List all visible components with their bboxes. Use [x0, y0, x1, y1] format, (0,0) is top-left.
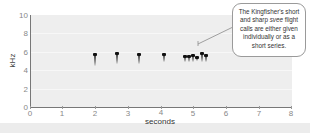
gridline-2khz: [30, 89, 292, 90]
gridline-4khz: [30, 70, 292, 71]
y-axis-label: kHz: [8, 51, 17, 71]
callout-text: flight: [283, 16, 298, 23]
callout-text: and sharp: [240, 16, 270, 23]
call-mark: [163, 53, 165, 62]
call-mark: [138, 53, 140, 64]
x-tick-5: 5: [188, 110, 198, 118]
callout-call-name: svee: [270, 16, 283, 23]
x-tick-8: 8: [286, 110, 296, 118]
callout-line-5: short series.: [236, 42, 302, 50]
call-mark: [205, 54, 207, 62]
x-tick-7: 7: [254, 110, 264, 118]
y-tick-8: 8: [14, 30, 28, 38]
y-tick-2: 2: [14, 86, 28, 94]
call-mark: [94, 53, 96, 66]
x-tick-4: 4: [156, 109, 166, 117]
x-tick-0: 0: [25, 110, 35, 118]
call-mark: [201, 52, 203, 62]
call-mark: [188, 55, 190, 62]
x-tick-1: 1: [57, 110, 67, 118]
call-mark: [116, 52, 118, 64]
call-mark: [184, 55, 186, 62]
callout-line-4: individually or as a: [236, 33, 302, 41]
x-tick-2: 2: [90, 110, 100, 118]
x-tick-3: 3: [123, 110, 133, 118]
call-mark: [192, 54, 194, 62]
annotation-callout: The Kingfisher's short and sharp svee fl…: [232, 3, 306, 57]
x-axis-label: seconds: [140, 117, 180, 126]
call-mark: [196, 56, 198, 61]
y-tick-10: 10: [14, 12, 28, 20]
y-axis: [30, 15, 31, 108]
callout-line-3: calls are either given: [236, 25, 302, 33]
callout-line-1: The Kingfisher's short: [236, 8, 302, 16]
x-tick-6: 6: [221, 110, 231, 118]
callout-line-2: and sharp svee flight: [236, 16, 302, 24]
